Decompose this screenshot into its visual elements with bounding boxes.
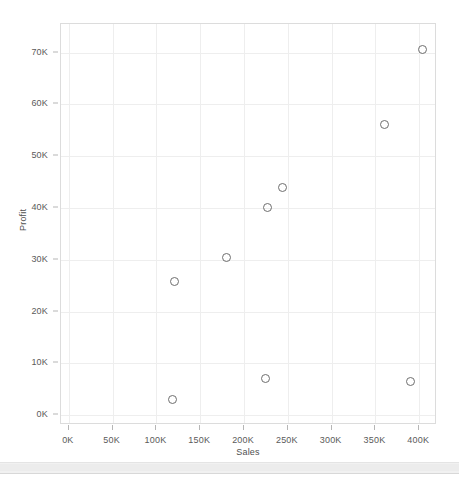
x-tick-mark [112, 425, 113, 430]
scatter-plot-visualization: Profit 0K10K20K30K40K50K60K70K 0K50K100K… [0, 0, 459, 485]
y-tick-label: 20K [31, 306, 48, 316]
gridline-horizontal [61, 312, 435, 313]
x-tick-label: 50K [103, 435, 120, 445]
y-tick-mark [53, 258, 58, 259]
x-tick-label: 300K [320, 435, 342, 445]
x-tick-mark [374, 425, 375, 430]
gridline-horizontal [61, 53, 435, 54]
scatter-point[interactable] [278, 183, 287, 192]
gridline-horizontal [61, 363, 435, 364]
gridline-horizontal [61, 156, 435, 157]
plot-area[interactable] [60, 23, 436, 424]
y-tick-mark [53, 362, 58, 363]
y-tick-label: 60K [31, 98, 48, 108]
x-tick-label: 350K [364, 435, 386, 445]
gridline-horizontal [61, 415, 435, 416]
y-tick-mark [53, 103, 58, 104]
gridline-vertical [69, 24, 70, 423]
y-axis: Profit 0K10K20K30K40K50K60K70K [0, 23, 60, 424]
scatter-point[interactable] [222, 253, 231, 262]
gridline-vertical [244, 24, 245, 423]
gridline-vertical [113, 24, 114, 423]
scatter-point[interactable] [170, 277, 179, 286]
y-tick-mark [53, 206, 58, 207]
x-tick-mark [243, 425, 244, 430]
x-tick-mark [68, 425, 69, 430]
scatter-point[interactable] [261, 374, 270, 383]
x-tick-label: 0K [62, 435, 73, 445]
gridline-vertical [419, 24, 420, 423]
y-tick-label: 50K [31, 150, 48, 160]
y-axis-title: Profit [18, 209, 28, 231]
x-tick-mark [287, 425, 288, 430]
y-tick-mark [53, 51, 58, 52]
y-tick-mark [53, 155, 58, 156]
x-tick-mark [331, 425, 332, 430]
x-tick-label: 400K [407, 435, 429, 445]
gridline-vertical [200, 24, 201, 423]
gridline-vertical [288, 24, 289, 423]
gridline-horizontal [61, 260, 435, 261]
x-tick-label: 150K [188, 435, 210, 445]
x-tick-mark [418, 425, 419, 430]
x-axis-title: Sales [60, 447, 436, 457]
x-tick-mark [155, 425, 156, 430]
y-tick-label: 70K [31, 47, 48, 57]
y-tick-label: 0K [37, 409, 48, 419]
gridline-vertical [375, 24, 376, 423]
y-tick-label: 10K [31, 357, 48, 367]
horizontal-scrollbar[interactable] [0, 462, 459, 474]
y-tick-mark [53, 414, 58, 415]
gridline-horizontal [61, 208, 435, 209]
x-tick-label: 100K [145, 435, 167, 445]
gridline-horizontal [61, 104, 435, 105]
y-tick-label: 40K [31, 202, 48, 212]
scatter-point[interactable] [263, 203, 272, 212]
scatter-point[interactable] [380, 120, 389, 129]
y-tick-mark [53, 310, 58, 311]
scatter-point[interactable] [406, 377, 415, 386]
x-tick-mark [199, 425, 200, 430]
y-tick-label: 30K [31, 254, 48, 264]
scatter-point[interactable] [168, 395, 177, 404]
x-tick-label: 200K [232, 435, 254, 445]
x-tick-label: 250K [276, 435, 298, 445]
gridline-vertical [332, 24, 333, 423]
horizontal-scrollbar-thumb[interactable] [0, 464, 459, 471]
gridline-vertical [156, 24, 157, 423]
